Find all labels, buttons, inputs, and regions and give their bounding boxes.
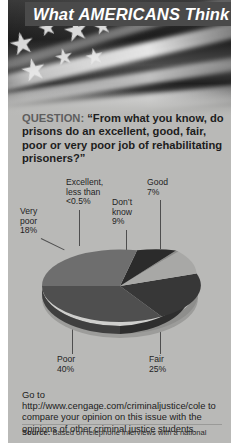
question-block: QUESTION: “From what you know, do prison… [22,112,224,166]
page-title: What AMERICANS Think [33,5,227,24]
star-icon: ★ [52,44,76,70]
label-dont-know: Don’t know 9% [112,198,132,227]
pie-chart: Excellent, less than <0.5% Good 7% Don’t… [8,178,231,386]
what-americans-think-figure: ★ ★ ★ ★ ★ ★ ★ What AMERICANS Think QUEST… [0,0,231,443]
page-title-part1: What [33,5,78,23]
star-icon: ★ [17,52,50,87]
footer-divider [22,424,222,425]
pie-graphic [30,230,210,360]
pie-svg [30,230,210,360]
title-bar: What AMERICANS Think [25,2,231,26]
source-note: Source: Based on telephone interviews wi… [22,428,228,437]
label-good: Good 7% [147,178,168,197]
question-label: QUESTION: [22,112,84,124]
source-text: Based on telephone interviews with a nat… [50,428,206,437]
page-title-part2: AMERICANS [78,5,180,23]
page-title-part3: Think [180,5,229,23]
star-icon: ★ [83,44,107,70]
label-excellent: Excellent, less than <0.5% [66,178,103,207]
source-label: Source: [22,428,50,437]
